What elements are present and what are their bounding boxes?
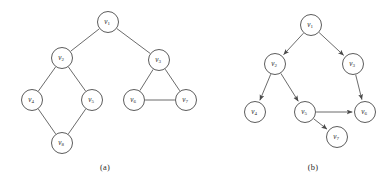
graph-node-panel-a-v6: v6	[124, 90, 145, 111]
undirected-edge	[68, 109, 85, 134]
directed-arc	[356, 75, 362, 100]
graph-node-panel-a-v1: v1	[98, 12, 119, 33]
figure-container: v1v2v3v4v5v6v7v8v1v2v3v4v5v6v7 (a)(b)	[0, 0, 392, 183]
undirected-edge	[165, 69, 180, 91]
graph-node-panel-b-v1: v1	[301, 15, 322, 36]
graph-node-panel-b-v4: v4	[245, 102, 266, 123]
directed-arc	[260, 74, 271, 100]
directed-arc	[281, 73, 298, 101]
panel-caption-a: (a)	[100, 163, 110, 172]
graph-node-panel-b-v2: v2	[265, 54, 286, 75]
graph-node-panel-a-v3: v3	[149, 50, 170, 71]
undirected-edge	[117, 29, 150, 54]
undirected-edge	[68, 67, 85, 91]
graph-node-panel-b-v7: v7	[327, 127, 348, 148]
graph-node-panel-a-v2: v2	[52, 48, 73, 69]
panel-caption-b: (b)	[308, 163, 319, 172]
undirected-edge	[71, 29, 100, 51]
graph-node-panel-b-v5: v5	[295, 102, 316, 123]
graph-node-panel-a-v8: v8	[52, 133, 73, 154]
graph-node-panel-b-v6: v6	[355, 102, 376, 123]
graph-node-panel-a-v5: v5	[82, 90, 103, 111]
directed-arc	[314, 119, 327, 129]
directed-arc	[319, 33, 344, 56]
undirected-edge	[38, 109, 55, 134]
directed-arc	[284, 33, 304, 55]
undirected-edge	[140, 69, 153, 90]
graph-node-panel-a-v7: v7	[176, 90, 197, 111]
undirected-edge	[38, 67, 55, 91]
graph-node-panel-b-v3: v3	[343, 54, 364, 75]
graph-figure-canvas: v1v2v3v4v5v6v7v8v1v2v3v4v5v6v7 (a)(b)	[0, 0, 392, 183]
nodes-layer: v1v2v3v4v5v6v7v8v1v2v3v4v5v6v7	[22, 12, 376, 154]
captions-layer: (a)(b)	[100, 163, 318, 172]
graph-node-panel-a-v4: v4	[22, 90, 43, 111]
